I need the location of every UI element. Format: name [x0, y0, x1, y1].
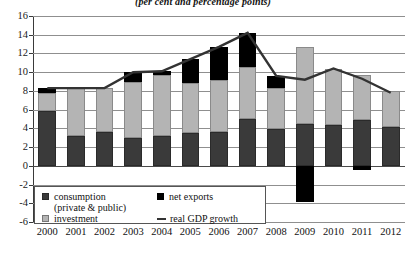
y-axis-label-16: 16	[0, 11, 28, 22]
y-axis-label-10: 10	[0, 67, 28, 78]
x-axis-label-2012: 2012	[376, 224, 405, 239]
x-axis-label-2003: 2003	[119, 224, 148, 239]
legend-consumption-line1: consumption	[54, 191, 106, 202]
x-axis-label-2005: 2005	[176, 224, 205, 239]
chart-container: (per cent and percentage points) 1614121…	[0, 0, 406, 260]
y-axis-label-2: 2	[0, 142, 28, 153]
x-axis-label-2002: 2002	[90, 224, 119, 239]
line-swatch-icon	[157, 215, 166, 222]
x-axis-label-2001: 2001	[62, 224, 91, 239]
x-axis-label-2000: 2000	[33, 224, 62, 239]
plot-area	[33, 16, 405, 196]
x-axis-label-2010: 2010	[319, 224, 348, 239]
y-axis-label-8: 8	[0, 86, 28, 97]
y-tick--6	[29, 222, 33, 223]
net-exports-swatch-icon	[157, 193, 164, 200]
x-axis-label-2008: 2008	[262, 224, 291, 239]
x-axis-label-2004: 2004	[147, 224, 176, 239]
x-axis-label-2011: 2011	[348, 224, 377, 239]
chart-legend: consumption (private & public) investmen…	[34, 186, 266, 224]
x-axis-label-2009: 2009	[291, 224, 320, 239]
legend-consumption-line2: (private & public)	[54, 202, 126, 213]
x-axis-labels: 2000200120022003200420052006200720082009…	[33, 224, 405, 240]
investment-swatch-icon	[42, 215, 49, 222]
y-axis-label--2: -2	[0, 180, 28, 191]
y-axis-label-12: 12	[0, 48, 28, 59]
y-axis-label-6: 6	[0, 105, 28, 116]
y-axis-label-4: 4	[0, 123, 28, 134]
legend-item-net-exports: net exports	[157, 191, 213, 202]
x-axis-label-2007: 2007	[233, 224, 262, 239]
x-axis-label-2006: 2006	[205, 224, 234, 239]
legend-item-investment: investment	[42, 213, 98, 224]
legend-label-investment: investment	[54, 213, 98, 224]
legend-label-consumption: consumption (private & public)	[54, 191, 126, 213]
y-axis-label--6: -6	[0, 217, 28, 228]
legend-item-real-gdp-growth: real GDP growth	[157, 213, 238, 224]
y-axis-label-0: 0	[0, 161, 28, 172]
y-axis-label--4: -4	[0, 198, 28, 209]
legend-item-consumption: consumption (private & public)	[42, 191, 126, 213]
legend-label-net-exports: net exports	[169, 191, 213, 202]
y-axis-label-14: 14	[0, 30, 28, 41]
gdp-growth-polyline	[47, 33, 390, 93]
legend-label-real-gdp-growth: real GDP growth	[170, 213, 238, 224]
chart-title: (per cent and percentage points)	[0, 0, 406, 7]
consumption-swatch-icon	[42, 193, 49, 200]
